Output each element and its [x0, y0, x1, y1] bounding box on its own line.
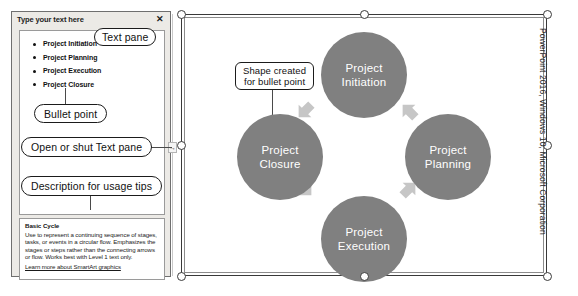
credit-text: PowerPoint 2016, Windows 10, Microsoft C…	[538, 28, 548, 268]
resize-handle-middle-left[interactable]	[177, 141, 186, 150]
smartart-node-project-closure[interactable]: Project Closure	[237, 114, 323, 200]
close-icon[interactable]: ✕	[156, 14, 164, 24]
annotation-tail-description	[90, 196, 91, 210]
resize-handle-top-left[interactable]	[177, 10, 186, 19]
list-item[interactable]: Project Closure	[32, 78, 101, 92]
node-label-line2: Initiation	[342, 75, 387, 89]
resize-handle-bottom-left[interactable]	[177, 272, 186, 281]
layout-description-text: Use to represent a continuing sequence o…	[25, 231, 159, 261]
learn-more-link[interactable]: Learn more about SmartArt graphics	[25, 263, 159, 270]
annotation-description-usage-tips: Description for usage tips	[21, 176, 162, 196]
annotation-open-shut-text-pane: Open or shut Text pane	[21, 137, 152, 157]
list-item[interactable]: Project Planning	[32, 51, 101, 65]
bullet-list[interactable]: Project Initiation Project Planning Proj…	[32, 37, 101, 91]
text-pane-header: Type your text here ✕	[12, 12, 170, 29]
annotation-bullet-point: Bullet point	[34, 104, 107, 123]
smartart-node-project-execution[interactable]: Project Execution	[321, 196, 407, 282]
resize-handle-top-center[interactable]	[360, 10, 369, 19]
node-label-line2: Closure	[259, 157, 300, 171]
node-label-line2: Execution	[338, 239, 390, 253]
layout-description-box: Basic Cycle Use to represent a continuin…	[19, 218, 165, 280]
smartart-graphic-selection[interactable]: Project Initiation Project Planning Proj…	[181, 14, 547, 276]
smartart-node-project-planning[interactable]: Project Planning	[405, 114, 491, 200]
smartart-node-project-initiation[interactable]: Project Initiation	[321, 32, 407, 118]
node-label-line1: Project	[345, 61, 382, 75]
annotation-text-pane: Text pane	[94, 28, 156, 46]
resize-handle-bottom-center[interactable]	[360, 272, 369, 281]
layout-description-title: Basic Cycle	[25, 222, 159, 229]
list-item[interactable]: Project Execution	[32, 64, 101, 78]
text-pane-title: Type your text here	[17, 15, 84, 24]
resize-handle-bottom-right[interactable]	[543, 272, 552, 281]
annotation-tail-bullet	[65, 88, 66, 105]
node-label-line1: Project	[261, 143, 298, 157]
cycle-arrow-icon	[396, 98, 422, 124]
node-label-line1: Project	[345, 225, 382, 239]
list-item[interactable]: Project Initiation	[32, 37, 101, 51]
resize-handle-top-right[interactable]	[543, 10, 552, 19]
node-label-line1: Project	[429, 143, 466, 157]
node-label-line2: Planning	[425, 157, 471, 171]
